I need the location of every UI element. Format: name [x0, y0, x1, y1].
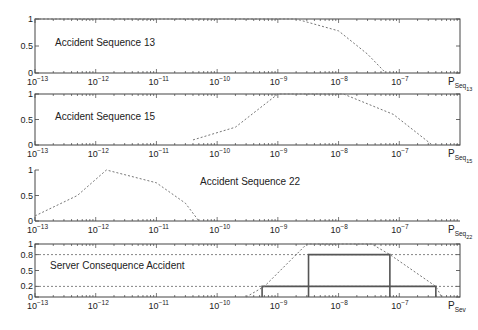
y-tick-label: 1 [28, 165, 33, 175]
membership-curve [35, 170, 199, 221]
x-tick-label: 10−11 [148, 147, 169, 159]
y-tick-label: 0.5 [20, 41, 33, 51]
x-axis-label: PSev [448, 300, 467, 313]
alpha-cut-interval [309, 255, 390, 297]
x-tick-label: 10−11 [148, 223, 169, 235]
x-tick-label: 10−11 [148, 75, 169, 87]
y-tick-label: 0.5 [20, 266, 33, 276]
panel-3: 10−1310−1210−1110−1010−910−810−7PSeq2200… [20, 165, 472, 240]
x-tick-label: 10−10 [209, 299, 230, 311]
x-tick-label: 10−12 [88, 147, 109, 159]
y-tick-label: 1 [28, 239, 33, 249]
panel-title: Accident Sequence 22 [200, 176, 301, 187]
x-tick-label: 10−7 [391, 147, 409, 159]
x-tick-label: 10−8 [331, 147, 349, 159]
panel-1: 10−1310−1210−1110−1010−910−810−7PSeq1300… [20, 14, 472, 92]
x-tick-label: 10−12 [88, 223, 109, 235]
y-tick-label: 1 [28, 14, 33, 24]
alpha-cut-interval [262, 286, 436, 297]
panel-title: Accident Sequence 15 [55, 111, 156, 122]
x-tick-label: 10−9 [270, 223, 288, 235]
y-tick-label: 0 [28, 216, 33, 226]
x-tick-label: 10−10 [209, 147, 230, 159]
membership-curve [193, 94, 432, 145]
x-axis-label: PSeq13 [448, 76, 472, 92]
x-axis-label: PSeq22 [448, 224, 472, 240]
panel-2: 10−1310−1210−1110−1010−910−810−7PSeq1500… [20, 89, 472, 164]
x-tick-label: 10−10 [209, 223, 230, 235]
y-tick-label: 0 [28, 292, 33, 302]
x-tick-label: 10−8 [331, 299, 349, 311]
x-axis-label: PSeq15 [448, 148, 472, 164]
x-tick-label: 10−7 [391, 299, 409, 311]
x-tick-label: 10−12 [88, 299, 109, 311]
x-tick-label: 10−11 [148, 299, 169, 311]
y-tick-label: 0.5 [20, 191, 33, 201]
x-tick-label: 10−12 [88, 75, 109, 87]
x-tick-label: 10−7 [391, 75, 409, 87]
x-tick-label: 10−8 [331, 223, 349, 235]
x-tick-label: 10−7 [391, 223, 409, 235]
panel-title: Server Consequence Accident [50, 260, 185, 271]
x-tick-label: 10−8 [331, 75, 349, 87]
y-tick-label: 0.5 [20, 115, 33, 125]
x-tick-label: 10−9 [270, 75, 288, 87]
membership-curve [246, 244, 442, 297]
x-tick-label: 10−10 [209, 75, 230, 87]
panel-4: 10−1310−1210−1110−1010−910−810−7PSev00.2… [20, 239, 466, 313]
y-tick-label: 0 [28, 68, 33, 78]
fuzzy-probability-chart: 10−1310−1210−1110−1010−910−810−7PSeq1300… [0, 0, 478, 330]
y-tick-label: 0.2 [20, 281, 33, 291]
y-tick-label: 0 [28, 140, 33, 150]
x-tick-label: 10−9 [270, 147, 288, 159]
x-tick-label: 10−9 [270, 299, 288, 311]
y-tick-label: 0.8 [20, 250, 33, 260]
y-tick-label: 1 [28, 89, 33, 99]
panel-title: Accident Sequence 13 [55, 37, 156, 48]
